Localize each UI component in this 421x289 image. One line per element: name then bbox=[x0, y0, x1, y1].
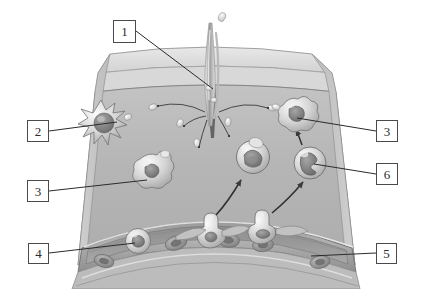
leukocyte-in-vessel bbox=[126, 229, 151, 254]
callout-label-3-right[interactable]: 3 bbox=[376, 120, 398, 142]
callout-label-5[interactable]: 5 bbox=[376, 243, 397, 264]
callout-label-2[interactable]: 2 bbox=[27, 120, 49, 142]
callout-label-6[interactable]: 6 bbox=[376, 163, 398, 185]
bacterium bbox=[211, 98, 217, 103]
neutrophil bbox=[294, 147, 326, 179]
callout-label-3-left[interactable]: 3 bbox=[27, 180, 49, 202]
callout-label-1[interactable]: 1 bbox=[113, 20, 136, 43]
callout-label-4[interactable]: 4 bbox=[28, 243, 49, 264]
inflammation-diagram bbox=[0, 0, 421, 289]
splinter-fleck bbox=[217, 11, 227, 22]
